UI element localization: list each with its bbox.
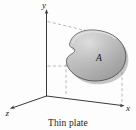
region-label-A: A [95, 53, 102, 63]
axis-z-line [12, 96, 47, 108]
axis-label-x: x [125, 103, 130, 113]
axis-label-z: z [5, 108, 10, 118]
axis-z [10, 96, 47, 109]
figure-caption: Thin plate [0, 118, 136, 130]
thin-plate-figure: y z x A Thin plate [0, 0, 136, 130]
axis-y [45, 9, 49, 96]
axis-x [47, 96, 125, 107]
axis-label-y: y [41, 0, 46, 10]
coordinate-axes-diagram: y z x A [0, 0, 136, 130]
axis-x-line [47, 96, 123, 106]
